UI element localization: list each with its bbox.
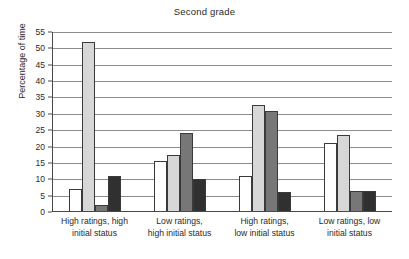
x-axis-ticks: High ratings, highinitial statusLow rati…	[52, 216, 392, 252]
plot-area: 0510152025303540455055	[52, 32, 392, 212]
y-tick-label: 20	[36, 142, 45, 152]
y-tick-mark	[48, 162, 52, 163]
y-tick-mark	[48, 64, 52, 65]
y-tick-label: 5	[40, 191, 45, 201]
chart-figure: Second grade Percentage of time 05101520…	[0, 0, 409, 259]
y-axis-label: Percentage of time	[17, 0, 27, 131]
x-tick-label: High ratings, highinitial status	[52, 216, 137, 252]
y-tick-label: 40	[36, 76, 45, 86]
y-tick-mark	[48, 97, 52, 98]
y-tick-label: 45	[36, 60, 45, 70]
y-axis-ticks: 0510152025303540455055	[52, 32, 392, 212]
y-tick-label: 15	[36, 158, 45, 168]
y-tick-label: 0	[40, 207, 45, 217]
y-tick-label: 55	[36, 27, 45, 37]
y-tick-mark	[48, 130, 52, 131]
chart-title: Second grade	[0, 6, 409, 17]
y-tick-mark	[48, 48, 52, 49]
y-tick-mark	[48, 32, 52, 33]
y-tick-label: 35	[36, 92, 45, 102]
y-tick-label: 25	[36, 125, 45, 135]
x-tick-label: High ratings,low initial status	[222, 216, 307, 252]
y-tick-label: 50	[36, 43, 45, 53]
y-tick-mark	[48, 81, 52, 82]
y-tick-label: 30	[36, 109, 45, 119]
y-tick-mark	[48, 179, 52, 180]
x-tick-label: Low ratings,high initial status	[137, 216, 222, 252]
y-tick-mark	[48, 195, 52, 196]
y-tick-label: 10	[36, 174, 45, 184]
x-tick-label: Low ratings, lowinitial status	[307, 216, 392, 252]
y-tick-mark	[48, 212, 52, 213]
y-tick-mark	[48, 113, 52, 114]
y-tick-mark	[48, 146, 52, 147]
